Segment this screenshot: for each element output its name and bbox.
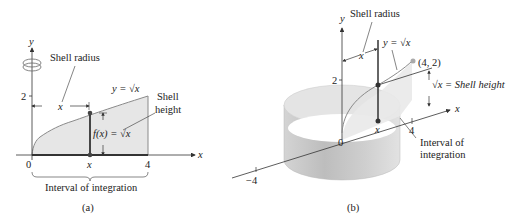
caption-a: (a) (82, 202, 94, 214)
shell-height-label-b: √x = Shell height (432, 79, 506, 90)
y-axis-label-b: y (339, 13, 345, 24)
panel-b: −4 4 2 y 0 (4, 2) x x Shell radius y = √… (232, 8, 506, 214)
x-point-label: x (86, 159, 92, 170)
figure: x Shell radius f(x) = √x y = √x Shell he… (0, 0, 523, 222)
interval-label: Interval of integration (45, 182, 138, 193)
x-axis-label: x (197, 149, 203, 160)
shell-radius-label-b: Shell radius (350, 8, 400, 19)
shell-height-label-1: Shell (157, 91, 179, 102)
panel-a: x Shell radius f(x) = √x y = √x Shell he… (16, 36, 203, 214)
tick-2: 2 (21, 91, 26, 102)
curve-label: y = √x (111, 83, 140, 94)
tick-neg4: −4 (246, 175, 258, 186)
curve-label-b: y = √x (382, 37, 411, 48)
interval-label-1: Interval of (420, 137, 465, 148)
fx-label: f(x) = √x (93, 128, 131, 140)
radius-x-label: x (57, 101, 63, 112)
interval-label-2: integration (420, 149, 466, 160)
caption-b: (b) (347, 202, 360, 214)
y-axis-label: y (28, 36, 34, 47)
x-axis-label-b: x (454, 103, 460, 114)
tick-4: 4 (145, 159, 151, 170)
x-point-label-b: x (374, 124, 380, 135)
shell-height-label-2: height (155, 104, 181, 115)
origin-label: 0 (26, 159, 31, 170)
point-label: (4, 2) (418, 57, 441, 69)
shell-radius-label: Shell radius (50, 52, 100, 63)
origin-label-b: 0 (338, 137, 343, 148)
tick-2-b: 2 (332, 75, 337, 86)
interval-brace (32, 172, 148, 181)
